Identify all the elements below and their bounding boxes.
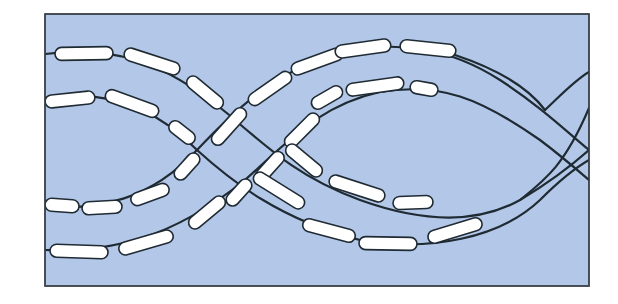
bead-segment <box>82 200 123 215</box>
bead-segment <box>45 198 80 213</box>
strand-diagram <box>0 0 618 304</box>
bead-segment <box>55 46 113 60</box>
bead-segment <box>393 195 433 209</box>
bead-segment <box>359 236 417 250</box>
bead-segment <box>50 244 108 259</box>
